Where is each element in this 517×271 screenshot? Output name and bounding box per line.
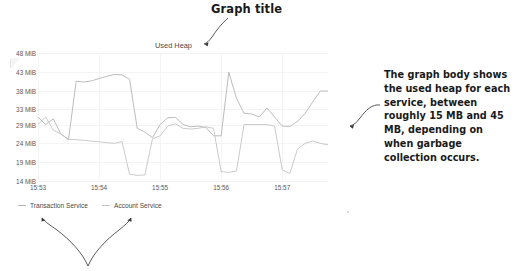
series-line: [38, 72, 328, 139]
y-tick-label: 48 MiB: [16, 50, 36, 57]
y-tick-label: 19 MiB: [16, 159, 36, 166]
legend-label: Account Service: [114, 202, 162, 209]
series-lines: [38, 53, 328, 181]
y-axis-ticks: 48 MiB43 MiB38 MiB33 MiB29 MiB24 MiB19 M…: [0, 53, 36, 181]
legend-swatch-icon: [18, 205, 26, 206]
x-tick-label: 15:56: [213, 184, 229, 191]
chart-series-title: Used Heap: [155, 41, 192, 50]
arrow-to-transaction-legend: [42, 218, 88, 266]
x-tick-label: 15:55: [152, 184, 168, 191]
x-tick-label: 15:57: [274, 184, 290, 191]
decorative-speck: [347, 211, 349, 213]
legend-item-account-service[interactable]: Account Service: [102, 202, 162, 209]
body-annotation-callout: The graph body shows the used heap for e…: [384, 68, 514, 164]
y-tick-label: 38 MiB: [16, 87, 36, 94]
legend-item-transaction-service[interactable]: Transaction Service: [18, 202, 88, 209]
y-tick-label: 33 MiB: [16, 106, 36, 113]
chart-panel: Used Heap 48 MiB43 MiB38 MiB33 MiB29 MiB…: [0, 28, 360, 218]
arrow-to-account-legend: [88, 218, 131, 266]
y-tick-label: 24 MiB: [16, 140, 36, 147]
legend-label: Transaction Service: [30, 202, 88, 209]
y-tick-label: 29 MiB: [16, 121, 36, 128]
x-tick-label: 15:53: [30, 184, 46, 191]
graph-title-callout: Graph title: [211, 2, 282, 16]
x-tick-label: 15:54: [91, 184, 107, 191]
screenshot-root: Graph title The graph body shows the use…: [0, 0, 517, 271]
chart-legend: Transaction Service Account Service: [18, 202, 162, 209]
gridline-horizontal: [38, 181, 328, 182]
arrowhead-account-legend: [127, 218, 131, 222]
legend-swatch-icon: [102, 205, 110, 206]
plot-area: [38, 53, 328, 181]
y-tick-label: 43 MiB: [16, 68, 36, 75]
arrowhead-transaction-legend: [41, 218, 45, 222]
x-axis-ticks: 15:5315:5415:5515:5615:57: [38, 184, 328, 196]
